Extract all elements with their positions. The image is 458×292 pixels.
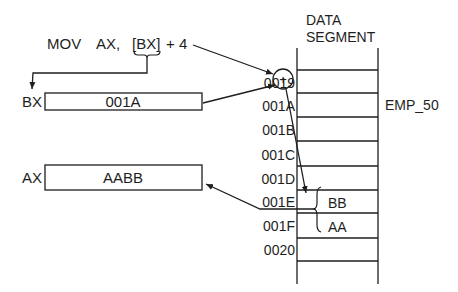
register-value: AABB xyxy=(103,169,143,186)
address-label: 0020 xyxy=(264,242,295,258)
data-segment xyxy=(297,48,378,284)
source-register: [BX] xyxy=(132,35,160,52)
data-to-ax-arrow xyxy=(206,184,315,209)
address-label: 001B xyxy=(262,122,295,138)
register-ax: AX AABB xyxy=(22,165,202,190)
word-brace xyxy=(314,187,321,232)
bx-pointer-arrow xyxy=(32,58,147,89)
address-label: 001D xyxy=(262,171,295,187)
variable-label: EMP_50 xyxy=(385,97,439,113)
address-label: 001C xyxy=(262,147,295,163)
register-value: 001A xyxy=(105,93,140,110)
opcode: MOV xyxy=(47,35,81,52)
address-label: 001E xyxy=(262,194,295,210)
register-name: AX xyxy=(22,169,42,186)
offset: + 4 xyxy=(166,35,187,52)
address-label: 001A xyxy=(262,98,295,114)
addressing-diagram: MOV AX, [BX] + 4 BX 001A + AX AABB DATA … xyxy=(0,0,458,292)
segment-title-line2: SEGMENT xyxy=(306,29,376,45)
segment-title-line1: DATA xyxy=(306,12,342,28)
underbrace xyxy=(134,51,160,58)
address-labels: 0019 001A 001B 001C 001D 001E 001F 0020 xyxy=(262,75,296,258)
instruction: MOV AX, [BX] + 4 xyxy=(47,35,187,52)
address-label: 001F xyxy=(263,218,295,234)
register-name: BX xyxy=(22,93,42,110)
cell-value-001f: AA xyxy=(328,219,347,235)
address-label: 0019 xyxy=(264,75,295,91)
offset-arrow xyxy=(193,45,273,74)
dest-operand: AX, xyxy=(96,35,120,52)
register-bx: BX 001A xyxy=(22,93,202,110)
cell-value-001e: BB xyxy=(328,195,347,211)
